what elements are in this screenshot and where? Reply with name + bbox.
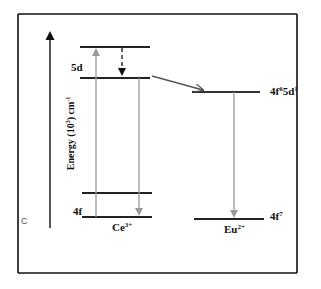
eu-ion-charge: 2+ — [237, 223, 245, 231]
eu-ion-name: Eu — [224, 223, 237, 235]
energy-diagram-canvas — [0, 0, 321, 289]
frame-border — [18, 14, 297, 273]
y-axis-label-sup: 3 — [65, 120, 71, 123]
energy-axis-arrow — [46, 31, 55, 228]
eu-excited-sup2: 1 — [294, 85, 298, 93]
ce-ion-name: Ce — [112, 221, 125, 233]
energy-transfer-arrow — [152, 76, 203, 90]
ce-ion-charge: 3+ — [125, 221, 133, 229]
y-axis-label: Energy (103) cm-1 — [65, 74, 76, 194]
eu-ground-sup: 7 — [279, 210, 283, 218]
eu-ground-label: 4f7 — [270, 211, 283, 222]
eu-excited-label: 4f65d1 — [270, 86, 298, 97]
corner-mark: C — [21, 216, 28, 226]
ce-4f-label: 4f — [73, 206, 82, 217]
y-axis-label-unit-sup: -1 — [65, 97, 71, 102]
ce-5d-label: 5d — [71, 62, 83, 73]
eu-ground-label-a: 4f — [270, 210, 279, 222]
eu-ion-label: Eu2+ — [224, 224, 245, 235]
y-axis-label-unit: ) cm — [65, 102, 76, 121]
y-axis-label-text: Energy (10 — [65, 123, 76, 170]
ce-ion-label: Ce3+ — [112, 222, 132, 233]
eu-excited-label-b: 5d — [283, 85, 295, 97]
eu-excited-label-a: 4f — [270, 85, 279, 97]
